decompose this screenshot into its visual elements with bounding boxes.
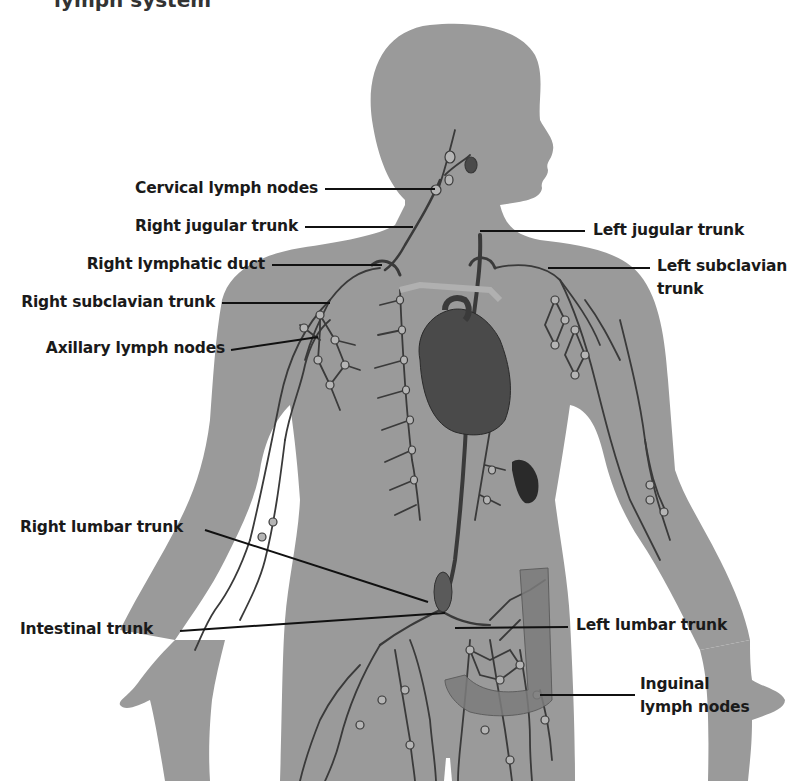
label-left-jugular-trunk: Left jugular trunk bbox=[593, 221, 744, 240]
label-right-lymphatic-duct: Right lymphatic duct bbox=[60, 255, 265, 274]
label-axillary-lymph-nodes: Axillary lymph nodes bbox=[20, 339, 225, 358]
label-inguinal-lymph-nodes-line1: Inguinal bbox=[640, 675, 709, 694]
leader-left-lumbar-trunk bbox=[455, 627, 568, 628]
hand-left bbox=[120, 640, 225, 781]
label-inguinal-lymph-nodes-line2: lymph nodes bbox=[640, 698, 749, 717]
label-right-jugular-trunk: Right jugular trunk bbox=[100, 217, 298, 236]
label-left-subclavian-trunk-line1: Left subclavian bbox=[657, 257, 787, 276]
label-right-subclavian-trunk: Right subclavian trunk bbox=[0, 293, 215, 312]
diagram-title: lymph system bbox=[54, 0, 211, 12]
label-right-lumbar-trunk: Right lumbar trunk bbox=[20, 518, 183, 537]
label-left-subclavian-trunk-line2: trunk bbox=[657, 280, 703, 299]
label-intestinal-trunk: Intestinal trunk bbox=[20, 620, 153, 639]
cisterna-chyli bbox=[434, 572, 452, 612]
lymph-system-diagram bbox=[0, 0, 812, 781]
label-left-lumbar-trunk: Left lumbar trunk bbox=[576, 616, 727, 635]
label-cervical-lymph-nodes: Cervical lymph nodes bbox=[118, 179, 318, 198]
